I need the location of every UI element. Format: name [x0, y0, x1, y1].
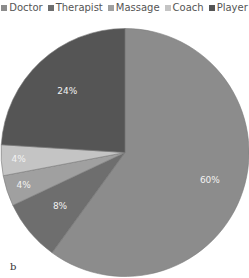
slice-label: 8% — [53, 201, 68, 211]
slice-label: 60% — [200, 175, 220, 185]
slice-label: 4% — [16, 180, 31, 190]
slice-label: 4% — [11, 154, 26, 164]
pie-chart: 60%8%4%4%24% — [0, 0, 249, 278]
slice-label: 24% — [57, 86, 77, 96]
panel-label: b — [10, 261, 16, 272]
